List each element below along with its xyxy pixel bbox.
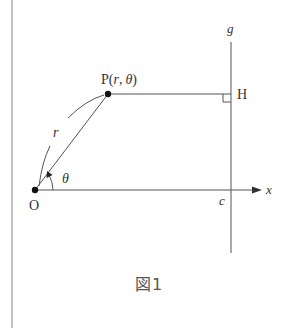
label-theta: θ [62, 171, 69, 186]
label-c: c [219, 193, 225, 208]
label-x: x [265, 182, 272, 197]
segment-op [35, 94, 108, 190]
x-axis-arrow-icon [252, 187, 262, 194]
point-o [32, 187, 38, 193]
point-p [105, 91, 111, 97]
polar-coordinate-diagram: P(r,θ) H g x c O r θ 図1 [0, 0, 290, 328]
right-angle-marker [223, 94, 231, 102]
figure-caption: 図1 [135, 275, 162, 294]
label-g: g [227, 21, 234, 36]
label-p: P(r,θ) [101, 72, 137, 88]
label-o: O [29, 198, 39, 213]
label-r: r [53, 125, 59, 140]
radius-brace-arc-lower [39, 146, 50, 186]
angle-theta-arc [49, 175, 53, 190]
label-h: H [237, 87, 247, 102]
